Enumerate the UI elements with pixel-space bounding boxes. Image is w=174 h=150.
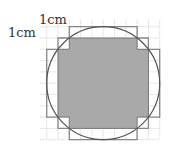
circle-grid-diagram xyxy=(0,0,174,150)
inner-shaded-region xyxy=(58,38,148,128)
